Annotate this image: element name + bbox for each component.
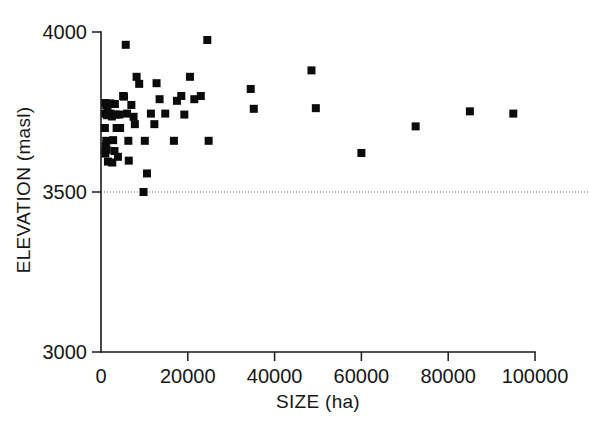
data-point (170, 137, 178, 145)
data-point (156, 95, 164, 103)
y-axis-tick-labels: 300035004000 (43, 21, 88, 363)
data-point (122, 41, 130, 49)
data-point (114, 153, 122, 161)
data-point (125, 157, 133, 165)
data-point (141, 137, 149, 145)
y-axis-ticks (92, 32, 101, 352)
data-point (177, 92, 185, 100)
data-point (120, 93, 128, 101)
data-point (250, 105, 258, 113)
data-point-group (101, 36, 517, 196)
data-point (466, 107, 474, 115)
data-point (115, 111, 123, 119)
x-axis-tick-labels: 020000400006000080000100000 (95, 365, 568, 387)
data-point (247, 85, 255, 93)
data-point (140, 188, 148, 196)
y-tick-label-3000: 3000 (43, 341, 88, 363)
x-tick-label-40000: 40000 (247, 365, 303, 387)
x-tick-label-0: 0 (95, 365, 106, 387)
data-point (101, 150, 109, 158)
data-point (180, 111, 188, 119)
scatter-plot-figure: 300035004000 020000400006000080000100000… (0, 0, 589, 426)
data-point (509, 110, 517, 118)
data-point (307, 66, 315, 74)
x-tick-label-20000: 20000 (160, 365, 216, 387)
data-point (131, 120, 139, 128)
data-point (147, 110, 155, 118)
data-point (133, 73, 141, 81)
data-point (130, 113, 138, 121)
data-point (150, 120, 158, 128)
data-point (312, 104, 320, 112)
x-axis-ticks (188, 352, 535, 361)
x-tick-label-80000: 80000 (420, 365, 476, 387)
data-point (357, 149, 365, 157)
data-point (111, 100, 119, 108)
data-point (124, 137, 132, 145)
y-tick-label-4000: 4000 (43, 21, 88, 43)
data-point (109, 136, 117, 144)
data-point (412, 122, 420, 130)
x-tick-label-100000: 100000 (502, 365, 569, 387)
data-point (161, 110, 169, 118)
x-tick-label-60000: 60000 (334, 365, 390, 387)
data-point (203, 36, 211, 44)
data-point (135, 80, 143, 88)
data-point (101, 124, 109, 132)
chart-canvas: 300035004000 020000400006000080000100000… (0, 0, 589, 426)
data-point (186, 73, 194, 81)
y-axis-title: ELEVATION (masl) (13, 107, 34, 274)
data-point (197, 92, 205, 100)
data-point (205, 137, 213, 145)
x-axis-title: SIZE (ha) (276, 391, 360, 412)
data-point (143, 169, 151, 177)
data-point (116, 124, 124, 132)
data-point (127, 101, 135, 109)
data-point (153, 79, 161, 87)
y-tick-label-3500: 3500 (43, 181, 88, 203)
